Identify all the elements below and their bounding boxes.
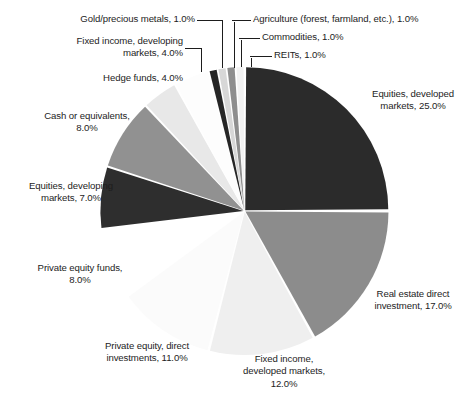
slice-label-private-equity-funds: Private equity funds, 8.0% bbox=[18, 262, 142, 287]
slice-label-agriculture: Agriculture (forest, farmland, etc.), 1.… bbox=[253, 13, 468, 25]
pie-chart-graphic bbox=[0, 0, 470, 414]
slice-label-reits: REITs, 1.0% bbox=[274, 49, 374, 61]
slice-label-fixed-income-developed-markets: Fixed income, developed markets, 12.0% bbox=[228, 353, 340, 390]
slice-label-private-equity-direct-investments: Private equity, direct investments, 11.0… bbox=[82, 340, 212, 365]
slice-label-cash-or-equivalents: Cash or equivalents, 8.0% bbox=[20, 110, 154, 135]
slice-label-gold-precious-metals: Gold/precious metals, 1.0% bbox=[55, 13, 195, 25]
slice-label-hedge-funds: Hedge funds, 4.0% bbox=[45, 72, 183, 84]
slice-label-fixed-income-developing-markets: Fixed income, developing markets, 4.0% bbox=[45, 35, 183, 60]
slice-label-equities-developing-markets: Equities, developing markets, 7.0% bbox=[5, 180, 137, 205]
slice-label-commodities: Commodities, 1.0% bbox=[262, 31, 382, 43]
slice-label-real-estate-direct-investment: Real estate direct investment, 17.0% bbox=[357, 288, 469, 313]
pie-chart-figure: Gold/precious metals, 1.0% Agriculture (… bbox=[0, 0, 470, 414]
slice-label-equities-developed-markets: Equities, developed markets, 25.0% bbox=[358, 88, 468, 113]
leader-line-fixed-income-developing-markets bbox=[185, 48, 201, 72]
